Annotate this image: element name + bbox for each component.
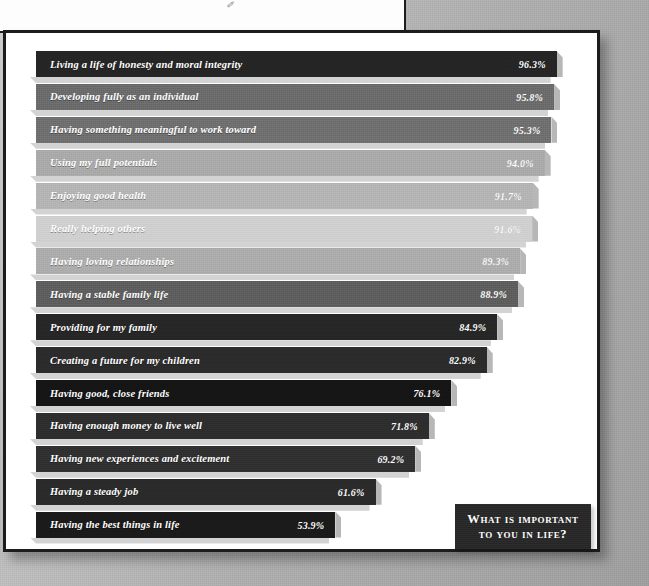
bar-value-label: 96.3% — [519, 59, 546, 70]
bar-category-label: Having a steady job — [50, 486, 138, 497]
bar: Enjoying good health91.7% — [36, 183, 533, 209]
bar-row: Enjoying good health91.7% — [36, 183, 533, 209]
bar-row: Developing fully as an individual95.8% — [36, 84, 554, 110]
bar-row: Having the best things in life53.9% — [36, 512, 335, 538]
bar-category-label: Developing fully as an individual — [50, 91, 198, 102]
bar: Having good, close friends76.1% — [36, 380, 451, 406]
bar: Having a stable family life88.9% — [36, 281, 518, 307]
bar-value-label: 94.0% — [507, 157, 534, 168]
chart-title-line-1: What is important — [467, 512, 578, 527]
bar: Creating a future for my children82.9% — [36, 347, 487, 373]
bar-row: Having a stable family life88.9% — [36, 281, 518, 307]
bar: Developing fully as an individual95.8% — [36, 84, 554, 110]
bar-row: Creating a future for my children82.9% — [36, 347, 487, 373]
bar-value-label: 91.6% — [494, 223, 521, 234]
bar-category-label: Creating a future for my children — [50, 355, 200, 366]
bar-row: Using my full potentials94.0% — [36, 150, 545, 176]
bar-value-label: 82.9% — [449, 355, 476, 366]
bar: Providing for my family84.9% — [36, 314, 497, 340]
bar: Using my full potentials94.0% — [36, 150, 545, 176]
bar: Having loving relationships89.3% — [36, 248, 520, 274]
bar: Having a steady job61.6% — [36, 479, 376, 505]
chart-title: What is importantto you in life? — [461, 512, 584, 542]
bar-category-label: Having a stable family life — [50, 289, 168, 300]
chart-page: Living a life of honesty and moral integ… — [3, 30, 600, 552]
bar-row: Having something meaningful to work towa… — [36, 117, 551, 143]
bar-row: Providing for my family84.9% — [36, 314, 497, 340]
bar-row: Having loving relationships89.3% — [36, 248, 520, 274]
bar: Having the best things in life53.9% — [36, 512, 335, 538]
background-sheet: ✐ — [0, 0, 406, 33]
bar-category-label: Living a life of honesty and moral integ… — [50, 59, 242, 70]
bar: Having something meaningful to work towa… — [36, 117, 551, 143]
bar-value-label: 53.9% — [298, 519, 325, 530]
bar: Living a life of honesty and moral integ… — [36, 51, 557, 77]
bar-row: Really helping others91.6% — [36, 216, 532, 242]
bar-value-label: 76.1% — [413, 388, 440, 399]
bar-value-label: 84.9% — [459, 322, 486, 333]
bar-row: Having good, close friends76.1% — [36, 380, 451, 406]
bar: Having new experiences and excitement69.… — [36, 446, 415, 472]
chart-title-line-2: to you in life? — [467, 527, 578, 542]
bar-value-label: 95.3% — [514, 124, 541, 135]
bar-category-label: Having something meaningful to work towa… — [50, 124, 256, 135]
bar-row: Having a steady job61.6% — [36, 479, 376, 505]
bar-category-label: Enjoying good health — [50, 190, 146, 201]
bar-value-label: 61.6% — [338, 486, 365, 497]
bar: Having enough money to live well71.8% — [36, 413, 429, 439]
bar-value-label: 88.9% — [480, 289, 507, 300]
bar-category-label: Having enough money to live well — [50, 420, 202, 431]
bar-value-label: 95.8% — [516, 91, 543, 102]
bar-category-label: Using my full potentials — [50, 157, 157, 168]
bar-value-label: 89.3% — [482, 256, 509, 267]
bar-category-label: Having good, close friends — [50, 388, 169, 399]
bar-category-label: Providing for my family — [50, 322, 157, 333]
bar-category-label: Having the best things in life — [50, 519, 180, 530]
bar-value-label: 91.7% — [495, 190, 522, 201]
bar-category-label: Having loving relationships — [50, 256, 174, 267]
bar: Really helping others91.6% — [36, 216, 532, 242]
bar-row: Having enough money to live well71.8% — [36, 413, 429, 439]
bar-category-label: Really helping others — [50, 223, 145, 234]
chart-title-plaque: What is importantto you in life? — [455, 504, 591, 549]
horizontal-bar-chart: Living a life of honesty and moral integ… — [6, 33, 597, 549]
bar-value-label: 69.2% — [377, 453, 404, 464]
pen-mark-icon: ✐ — [226, 2, 233, 9]
bar-category-label: Having new experiences and excitement — [50, 453, 229, 464]
bar-row: Having new experiences and excitement69.… — [36, 446, 415, 472]
bar-value-label: 71.8% — [391, 420, 418, 431]
bar-row: Living a life of honesty and moral integ… — [36, 51, 557, 77]
